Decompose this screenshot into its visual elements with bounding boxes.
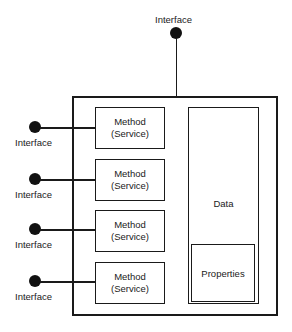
interface-label: Interface xyxy=(15,189,52,200)
interface-connector xyxy=(40,229,96,231)
method-sublabel: (Service) xyxy=(111,231,149,243)
method-label: Method xyxy=(114,168,146,180)
method-box: Method (Service) xyxy=(95,210,165,252)
interface-connector xyxy=(40,281,96,283)
method-sublabel: (Service) xyxy=(111,180,149,192)
method-sublabel: (Service) xyxy=(111,283,149,295)
interface-connector xyxy=(40,179,96,181)
interface-label: Interface xyxy=(15,239,52,250)
interface-label: Interface xyxy=(15,291,52,302)
interface-connector xyxy=(40,127,96,129)
top-interface-connector xyxy=(176,38,178,97)
method-box: Method (Service) xyxy=(95,262,165,304)
method-box: Method (Service) xyxy=(95,159,165,201)
top-interface-label: Interface xyxy=(155,14,192,25)
method-sublabel: (Service) xyxy=(111,128,149,140)
properties-label: Properties xyxy=(191,268,255,279)
method-label: Method xyxy=(114,116,146,128)
method-label: Method xyxy=(114,271,146,283)
interface-label: Interface xyxy=(15,137,52,148)
data-label: Data xyxy=(188,198,259,209)
method-box: Method (Service) xyxy=(95,107,165,149)
method-label: Method xyxy=(114,219,146,231)
